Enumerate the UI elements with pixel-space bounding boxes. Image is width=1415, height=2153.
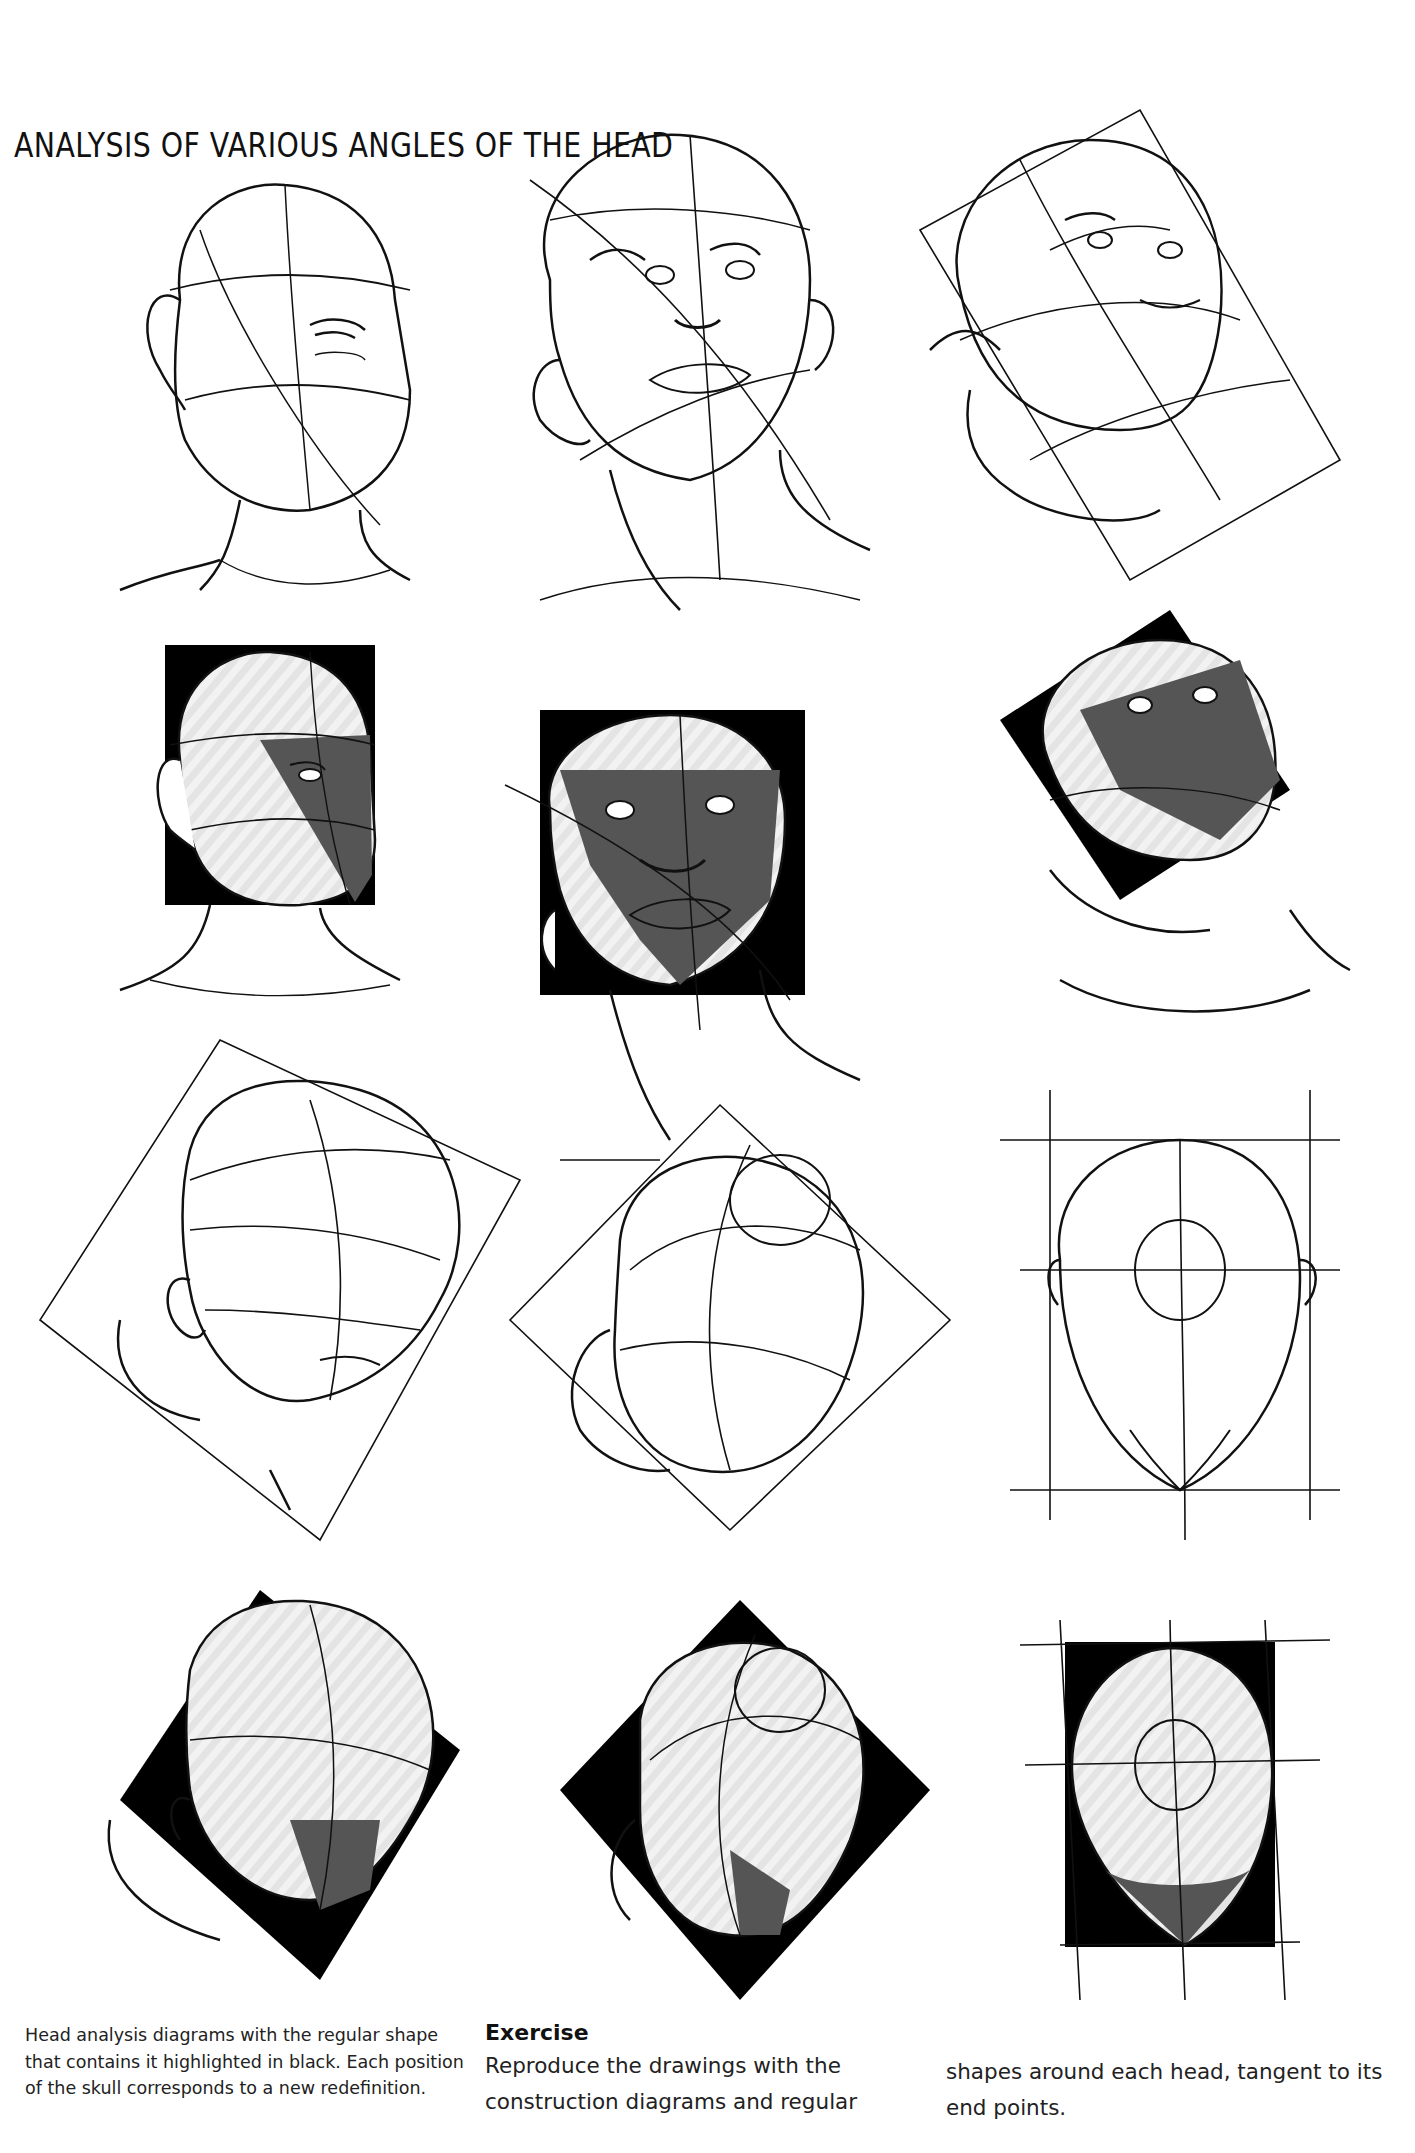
figure-head-row4-col2 [540, 1590, 940, 2020]
exercise-title: Exercise [485, 2018, 925, 2048]
figure-head-row2-col1 [110, 640, 410, 1000]
figure-head-row1-col3 [900, 100, 1350, 600]
figure-head-row3-col3 [1000, 1080, 1360, 1540]
figure-head-row1-col1 [110, 170, 450, 600]
figure-head-row2-col3 [990, 610, 1350, 1030]
exercise-section: Exercise Reproduce the drawings with the… [485, 2018, 925, 2120]
exercise-text-part1: Reproduce the drawings with the construc… [485, 2048, 925, 2120]
exercise-text-part2: shapes around each head, tangent to its … [946, 2054, 1386, 2126]
figure-head-row3-col1 [40, 1030, 540, 1540]
head-drawing-icon [110, 170, 450, 600]
figure-head-row4-col3 [1010, 1620, 1360, 2000]
figure-head-row1-col2 [480, 130, 900, 610]
figure-head-row2-col2 [500, 700, 900, 1150]
figure-head-row4-col1 [80, 1560, 520, 2020]
figure-caption: Head analysis diagrams with the regular … [25, 2022, 475, 2102]
figure-head-row3-col2 [500, 1100, 960, 1540]
